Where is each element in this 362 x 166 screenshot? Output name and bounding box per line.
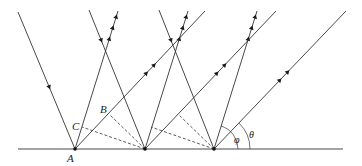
- dashed-wavefront-line: [110, 115, 145, 149]
- steep-reflected-rays: [75, 11, 257, 149]
- steep-reflected-ray: [145, 11, 188, 149]
- label-point-b: B: [100, 104, 107, 115]
- incident-ray: [89, 10, 145, 149]
- dashed-wavefront-line: [82, 127, 145, 149]
- scatter-point-dot: [143, 147, 147, 151]
- shallow-reflected-ray: [75, 11, 205, 149]
- shallow-reflected-ray: [145, 11, 276, 149]
- label-point-a: A: [67, 153, 74, 164]
- label-theta: θ: [249, 130, 254, 140]
- shallow-reflected-rays: [75, 11, 346, 149]
- diagram-canvas: [0, 0, 362, 166]
- steep-reflected-ray: [75, 11, 118, 149]
- label-phi: φ: [234, 135, 240, 145]
- label-point-c: C: [72, 121, 79, 132]
- scatter-point-dot: [212, 147, 216, 151]
- dashed-wavefront-line: [179, 115, 214, 149]
- scatter-point-dot: [73, 147, 77, 151]
- dashed-wavefront-line: [151, 127, 214, 149]
- incident-ray: [18, 12, 75, 149]
- diffraction-diagram: A B C φ θ: [0, 0, 362, 166]
- incident-rays: [18, 10, 214, 149]
